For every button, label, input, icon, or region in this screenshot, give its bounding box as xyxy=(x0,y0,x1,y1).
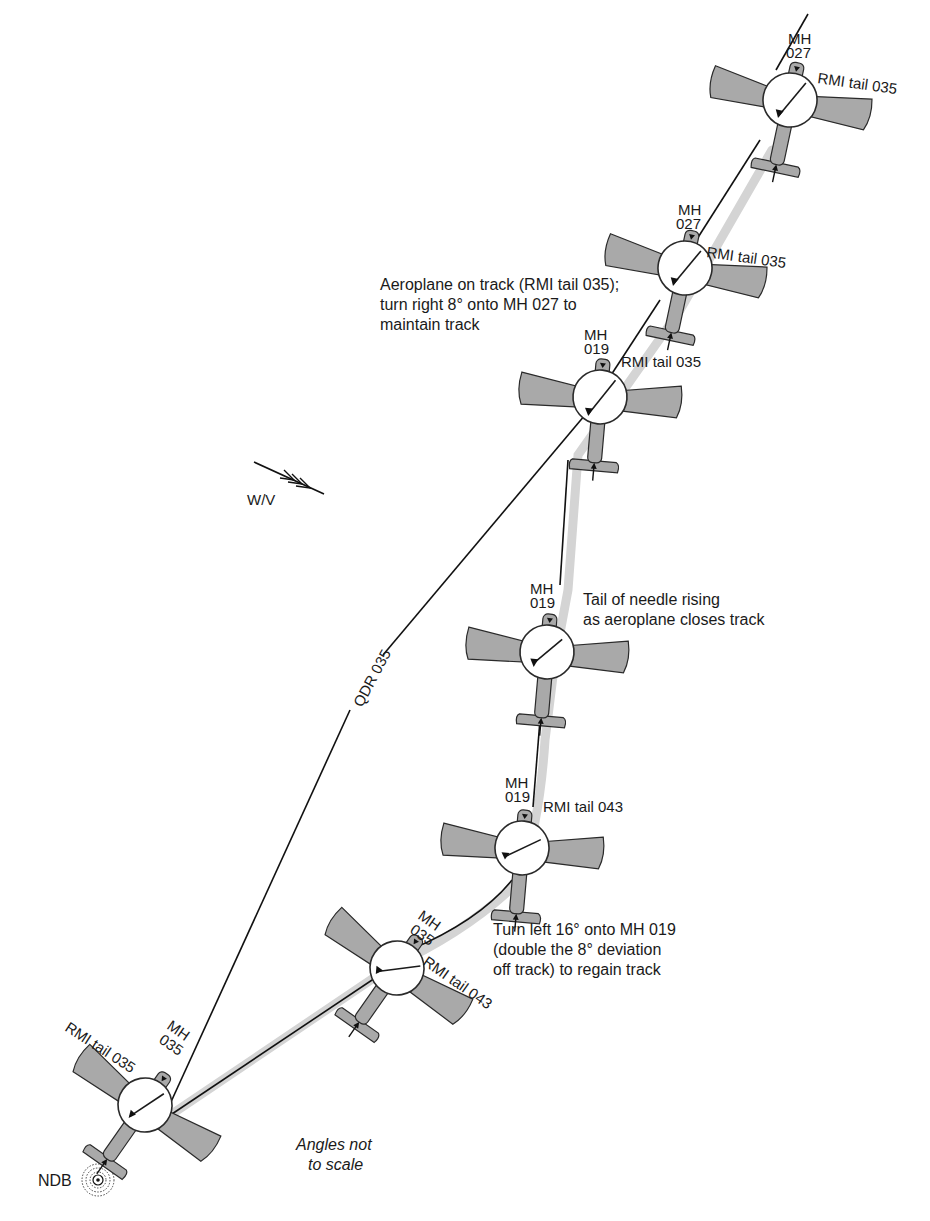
wind-label: W/V xyxy=(247,491,275,508)
svg-text:Angles not: Angles not xyxy=(295,1136,372,1153)
aircraft-5-mh-value: 019 xyxy=(584,340,609,357)
annotation-needle-rising: Tail of needle rising as aeroplane close… xyxy=(583,591,765,628)
aircraft-3-rmi: RMI tail 043 xyxy=(543,798,623,815)
qdr-label: QDR 035 xyxy=(350,646,394,709)
aircraft-7 xyxy=(693,46,878,199)
svg-text:Turn left 16° onto MH 019: Turn left 16° onto MH 019 xyxy=(493,921,676,938)
svg-text:off track) to regain track: off track) to regain track xyxy=(493,961,662,978)
svg-text:Aeroplane on track (RMI tail 0: Aeroplane on track (RMI tail 035); xyxy=(380,276,619,293)
aircraft-5 xyxy=(511,352,684,488)
svg-text:as aeroplane closes track: as aeroplane closes track xyxy=(583,611,765,628)
aircraft-6-mh-value: 027 xyxy=(676,215,701,232)
aircraft-5-rmi: RMI tail 035 xyxy=(621,353,701,370)
wind-arrow-icon xyxy=(254,462,324,494)
aircraft-7-rmi: RMI tail 035 xyxy=(817,69,899,97)
svg-text:turn right 8° onto MH 027 to: turn right 8° onto MH 027 to xyxy=(380,296,577,313)
aircraft-3 xyxy=(433,803,606,939)
scale-note: Angles not to scale xyxy=(295,1136,372,1173)
ndb-label: NDB xyxy=(38,1172,72,1189)
aircraft-4-mh-value: 019 xyxy=(530,594,555,611)
svg-text:maintain track: maintain track xyxy=(380,316,481,333)
svg-text:to scale: to scale xyxy=(308,1156,363,1173)
annotation-on-track: Aeroplane on track (RMI tail 035); turn … xyxy=(380,276,619,333)
aircraft-3-mh-value: 019 xyxy=(505,788,530,805)
aircraft-7-mh-value: 027 xyxy=(786,44,811,61)
ndb-tracking-diagram: QDR 035 W/V NDB RMI tail 035 MH 035 MH 0… xyxy=(0,0,930,1221)
aircraft-1 xyxy=(30,1027,234,1221)
annotation-turn-left: Turn left 16° onto MH 019 (double the 8°… xyxy=(493,921,676,978)
svg-text:(double the 8° deviation: (double the 8° deviation xyxy=(493,941,661,958)
svg-text:Tail of needle rising: Tail of needle rising xyxy=(583,591,720,608)
